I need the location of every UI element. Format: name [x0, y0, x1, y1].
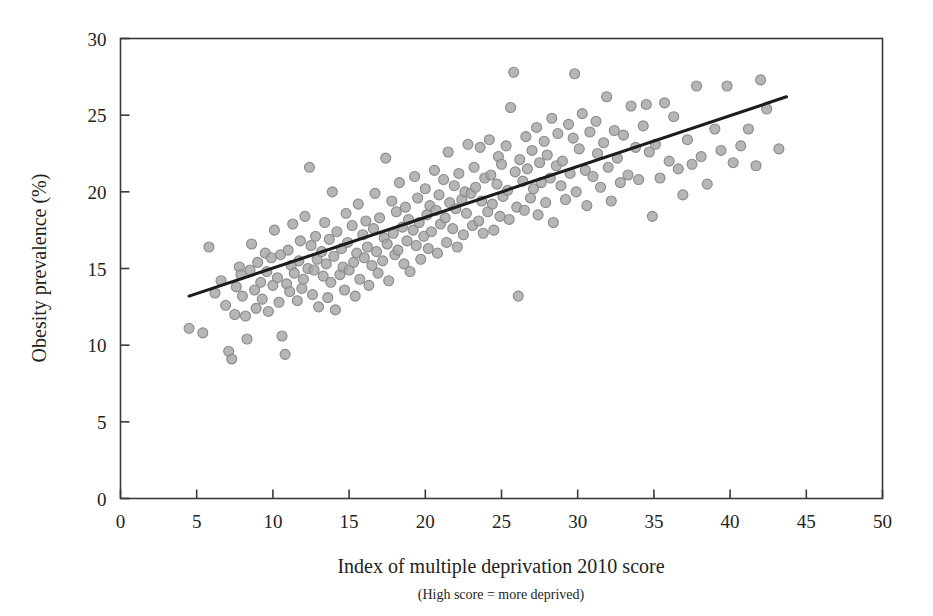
data-point	[495, 211, 505, 221]
data-point	[522, 164, 532, 174]
data-point	[510, 167, 520, 177]
data-point	[655, 173, 665, 183]
data-point	[634, 175, 644, 185]
data-point	[434, 190, 444, 200]
data-point	[743, 124, 753, 134]
data-point	[564, 119, 574, 129]
data-point	[426, 227, 436, 237]
data-point	[272, 273, 282, 283]
data-point	[443, 147, 453, 157]
chart-background	[0, 0, 933, 616]
data-point	[461, 208, 471, 218]
data-point	[298, 274, 308, 284]
data-point	[362, 242, 372, 252]
data-point	[638, 121, 648, 131]
data-point	[247, 239, 257, 249]
data-point	[297, 283, 307, 293]
data-point	[269, 225, 279, 235]
data-point	[486, 170, 496, 180]
data-point	[405, 267, 415, 277]
data-point	[487, 199, 497, 209]
y-tick-label: 10	[88, 335, 107, 356]
data-point	[602, 92, 612, 102]
data-point	[400, 202, 410, 212]
x-tick-label: 10	[263, 511, 282, 532]
data-point	[615, 178, 625, 188]
data-point	[393, 245, 403, 255]
data-point	[454, 168, 464, 178]
data-point	[231, 282, 241, 292]
data-point	[242, 334, 252, 344]
data-point	[442, 237, 452, 247]
data-point	[521, 132, 531, 142]
data-point	[682, 135, 692, 145]
data-point	[341, 208, 351, 218]
data-point	[571, 187, 581, 197]
data-point	[515, 155, 525, 165]
data-point	[285, 287, 295, 297]
data-point	[411, 241, 421, 251]
data-point	[353, 199, 363, 209]
data-point	[289, 268, 299, 278]
data-point	[402, 236, 412, 246]
data-point	[198, 328, 208, 338]
x-tick-label: 20	[416, 511, 435, 532]
data-point	[277, 331, 287, 341]
data-point	[618, 130, 628, 140]
x-tick-label: 15	[340, 511, 359, 532]
y-tick-label: 15	[88, 259, 107, 280]
data-point	[716, 145, 726, 155]
data-point	[329, 251, 339, 261]
y-tick-label: 30	[88, 29, 107, 50]
data-point	[283, 245, 293, 255]
data-point	[324, 234, 334, 244]
data-point	[372, 247, 382, 257]
data-point	[263, 306, 273, 316]
data-point	[321, 259, 331, 269]
data-point	[423, 244, 433, 254]
data-point	[678, 190, 688, 200]
data-point	[469, 162, 479, 172]
data-point	[253, 257, 263, 267]
data-point	[535, 158, 545, 168]
data-point	[687, 159, 697, 169]
data-point	[332, 227, 342, 237]
data-point	[449, 181, 459, 191]
x-tick-label: 5	[192, 511, 202, 532]
data-point	[327, 187, 337, 197]
data-point	[439, 175, 449, 185]
data-point	[484, 135, 494, 145]
y-tick-label: 20	[88, 182, 107, 203]
data-point	[623, 170, 633, 180]
data-point	[413, 193, 423, 203]
data-point	[492, 179, 502, 189]
y-tick-label: 25	[88, 105, 107, 126]
data-point	[525, 193, 535, 203]
data-point	[320, 218, 330, 228]
data-point	[416, 254, 426, 264]
data-point	[599, 138, 609, 148]
data-point	[527, 145, 537, 155]
scatter-chart-figure: 05101520253035404550051015202530 Index o…	[0, 0, 933, 616]
data-point	[355, 274, 365, 284]
data-point	[240, 311, 250, 321]
y-axis-title: Obesity prevalence (%)	[28, 174, 51, 363]
data-point	[474, 216, 484, 226]
data-point	[308, 290, 318, 300]
data-point	[349, 257, 359, 267]
data-point	[603, 162, 613, 172]
data-point	[326, 277, 336, 287]
x-axis-subtitle: (High score = more deprived)	[418, 587, 585, 603]
data-point	[702, 179, 712, 189]
data-point	[373, 268, 383, 278]
data-point	[458, 230, 468, 240]
x-tick-label: 40	[721, 511, 740, 532]
data-point	[736, 141, 746, 151]
data-point	[582, 201, 592, 211]
data-point	[448, 224, 458, 234]
data-point	[541, 198, 551, 208]
data-point	[557, 156, 567, 166]
data-point	[378, 256, 388, 266]
data-point	[539, 136, 549, 146]
data-point	[323, 293, 333, 303]
